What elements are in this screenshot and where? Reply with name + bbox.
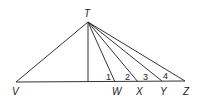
point-label-w: W	[112, 86, 123, 97]
angle-label-4: 4	[163, 71, 168, 81]
segment-tz	[88, 22, 185, 81]
segment-vz	[16, 81, 185, 82]
point-label-v: V	[12, 86, 20, 97]
point-label-t: T	[84, 8, 91, 19]
angle-label-3: 3	[143, 72, 148, 82]
geometry-diagram: T V W X Y Z 1 2 3 4	[0, 0, 198, 104]
angle-label-2: 2	[125, 72, 130, 82]
point-label-x: X	[135, 86, 143, 97]
segment-tx	[88, 22, 138, 82]
point-label-z: Z	[182, 86, 190, 97]
angle-label-1: 1	[106, 72, 111, 82]
point-label-y: Y	[160, 86, 168, 97]
segment-tv	[16, 22, 88, 82]
